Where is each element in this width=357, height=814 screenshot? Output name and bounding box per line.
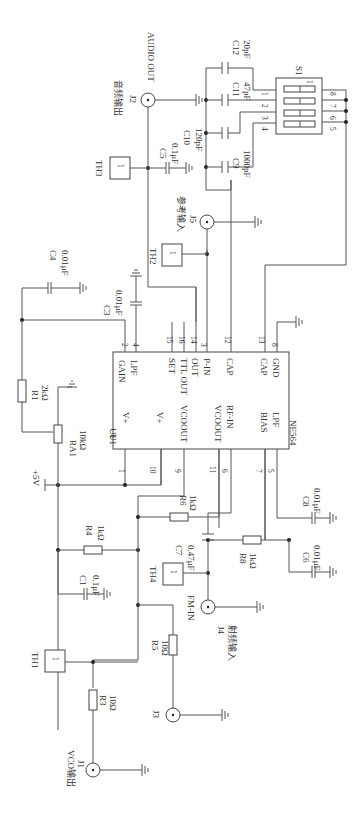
junction [344,98,348,102]
resistor-r3 [89,690,97,710]
ground-icon [67,381,77,387]
pin-num-16: 16 [177,336,186,344]
pin-num-15: 15 [165,336,174,344]
connector-j5[interactable] [200,215,214,229]
resistor-r8 [243,536,261,544]
ra1-value: 10kΩ [78,430,88,451]
pin-num-8: 8 [270,343,279,347]
test-point-th3[interactable] [110,157,130,179]
test-point-th1[interactable] [45,650,65,672]
c6-value: 0.01μF [312,545,322,571]
junction [91,660,95,664]
ground-icon [296,316,302,328]
ground-icon [257,601,263,613]
s1-pin-1: 1 [260,92,269,96]
c3-value: 0.01μF [114,290,124,316]
th3-pin: 1 [116,164,125,168]
pin-label-vplus2: V+ [155,412,165,424]
s1-pin-7: 7 [328,104,337,108]
cap-net [206,68,231,190]
connector-j4[interactable] [201,600,215,614]
pin-label-p-in: P-IN [202,358,212,376]
supply-label: +5V [31,470,41,487]
test-point-th4[interactable] [163,563,183,585]
th1-ref: TH1 [30,652,40,669]
c7-ref: C7 [174,545,184,556]
s1-ref: S1 [294,66,304,76]
j2-label2: AUDIO OUT [146,32,156,82]
j2-ref: J2 [128,95,138,103]
c6-ref: C6 [301,552,311,563]
pin-label-vplus1: V+ [121,412,131,424]
c1-wire [58,550,84,594]
j5-label: 参考输入 [176,196,187,232]
r8-value: 1kΩ [248,553,258,569]
s1-pin-6: 6 [328,116,337,120]
r1-ref: R1 [30,390,40,401]
pin-num-12: 12 [223,336,232,344]
th1-pin: 1 [51,657,60,661]
resistor-r1 [18,380,26,402]
capacitor-c3 [130,270,142,320]
s1-pin-2: 2 [260,104,269,108]
s1-pin-8: 8 [328,92,337,96]
j4-ref: J4 [216,626,226,635]
junction [123,483,127,487]
connector-j1[interactable] [86,763,100,777]
ground-icon [142,764,148,776]
r4-value: 1kΩ [96,525,106,541]
c9-ref: C9 [231,158,241,169]
capacitor-c4 [48,282,86,294]
pin-num-4: 4 [131,343,140,347]
r5-wires [138,605,173,715]
c1-ref: C1 [78,575,88,586]
pin-label-cap2: CAP [259,358,269,376]
pin-num-3: 3 [199,343,208,347]
ground-icon [222,709,228,721]
r1-value: 2kΩ [40,385,50,401]
r4-ref: R4 [84,525,94,536]
r5-ref: R5 [150,640,160,651]
pin-label-ttl-out: TTL OUT [179,358,189,395]
test-point-th2[interactable] [162,244,182,266]
th2-ref: TH2 [148,248,158,265]
c8-value: 0.01μF [312,488,322,514]
pin-label-rf-in: RF-IN [225,405,235,429]
vplus-rail [45,449,161,485]
schematic-canvas: U1 NE564 GAIN LPF SET TTL OUT OUT P-IN C… [0,0,357,814]
j1-label: VCO输出 [66,750,77,787]
junction [344,120,348,124]
th2-pin: 1 [168,251,177,255]
s1-pin-3: 3 [260,116,269,120]
j3-ref: J3 [151,710,161,719]
pin-label-lpf2: LPF [271,412,281,428]
c5-ref: C5 [158,148,168,159]
c5-value: 0.1μF [170,143,180,164]
c4-value: 0.01μF [60,250,70,276]
svg-text:NE564: NE564 [288,420,298,446]
pin-label-gain: GAIN [117,360,127,383]
pin-num-14: 14 [189,336,198,344]
resistor-r4 [84,546,102,554]
resistor-r6 [170,513,188,521]
s1-pin-5: 5 [328,127,337,131]
junction [344,109,348,113]
th3-ref: TH3 [94,160,104,177]
pin-label-lpf: LPF [129,360,139,376]
th4-ref: TH4 [148,566,158,583]
c12-ref: C12 [231,40,241,55]
r6-ref: R6 [178,495,188,506]
j1-ref: J1 [76,760,86,768]
pin-label-set: SET [167,358,177,375]
connector-j2[interactable] [141,93,155,107]
c4-ref: C4 [48,250,58,261]
c11-ref: C11 [231,82,241,97]
connector-j3[interactable] [166,708,180,722]
c9-value: 1000pF [242,150,252,178]
j4-label2: FM-IN [186,595,196,621]
j2-label: 音频输出 [113,80,124,116]
ic-u1-ref: U1 [108,428,118,439]
potentiometer-ra1 [54,425,62,443]
c7-value: 0.47μF [186,545,196,571]
j4-label: 射频输入 [227,625,238,661]
